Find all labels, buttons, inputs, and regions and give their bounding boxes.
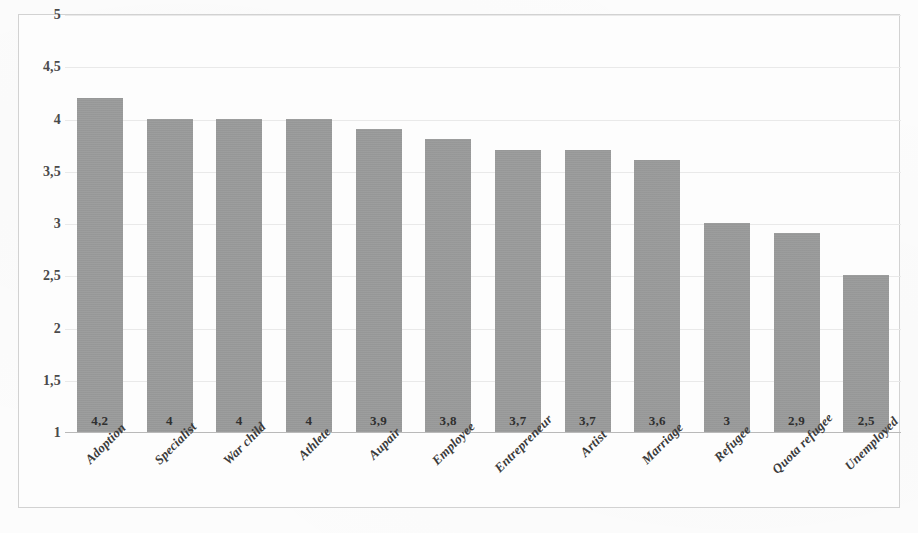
bar-slot: 2,5	[831, 15, 901, 432]
bar-slot: 2,9	[762, 15, 832, 432]
x-label-slot: Refugee	[692, 434, 762, 507]
bar[interactable]: 4	[286, 119, 332, 433]
x-label-slot: Adoption	[65, 434, 135, 507]
y-axis-tick-label: 5	[27, 7, 61, 23]
bar-slot: 4	[274, 15, 344, 432]
x-label-slot: Employee	[413, 434, 483, 507]
plot-area: 4,24443,93,83,73,73,632,92,5	[65, 15, 901, 433]
bar[interactable]: 3	[704, 223, 750, 432]
y-axis-tick-label: 2	[27, 321, 61, 337]
bar-value-label: 3,7	[565, 413, 611, 429]
bar-series: 4,24443,93,83,73,73,632,92,5	[65, 15, 901, 432]
bar-slot: 3,9	[344, 15, 414, 432]
y-axis-tick-label: 3	[27, 216, 61, 232]
bar[interactable]: 3,8	[425, 139, 471, 432]
bar-slot: 3,7	[483, 15, 553, 432]
x-label-slot: Marriage	[622, 434, 692, 507]
bar[interactable]: 4	[147, 119, 193, 433]
x-label-slot: Aupair	[344, 434, 414, 507]
x-axis-labels: AdoptionSpecialistWar childAthleteAupair…	[65, 434, 901, 507]
bar-slot: 4	[204, 15, 274, 432]
bar-slot: 3,7	[553, 15, 623, 432]
y-axis-tick-label: 1,5	[27, 373, 61, 389]
bar[interactable]: 2,9	[774, 233, 820, 432]
x-label-slot: Specialist	[135, 434, 205, 507]
bar[interactable]: 4,2	[77, 98, 123, 432]
chart-page: 54,543,532,521,51 4,24443,93,83,73,73,63…	[0, 0, 918, 533]
y-axis-tick-label: 1	[27, 425, 61, 441]
bar-slot: 3	[692, 15, 762, 432]
y-axis-tick-label: 4,5	[27, 59, 61, 75]
x-label-slot: Artist	[553, 434, 623, 507]
chart-frame: 54,543,532,521,51 4,24443,93,83,73,73,63…	[18, 14, 900, 508]
x-label-slot: War child	[204, 434, 274, 507]
bar[interactable]: 3,7	[495, 150, 541, 432]
y-axis: 54,543,532,521,51	[19, 15, 61, 509]
x-label-slot: Unemployed	[831, 434, 901, 507]
y-axis-tick-label: 4	[27, 112, 61, 128]
x-label-slot: Quota refugee	[762, 434, 832, 507]
bar[interactable]: 4	[216, 119, 262, 433]
y-axis-tick-label: 2,5	[27, 268, 61, 284]
bar-slot: 3,8	[413, 15, 483, 432]
bar[interactable]: 3,7	[565, 150, 611, 432]
y-axis-tick-label: 3,5	[27, 164, 61, 180]
x-label-slot: Athlete	[274, 434, 344, 507]
x-label-slot: Entrepreneur	[483, 434, 553, 507]
bar-slot: 3,6	[622, 15, 692, 432]
bar[interactable]: 3,9	[356, 129, 402, 432]
bar-slot: 4,2	[65, 15, 135, 432]
bar-slot: 4	[135, 15, 205, 432]
bar[interactable]: 3,6	[634, 160, 680, 432]
bar[interactable]: 2,5	[843, 275, 889, 432]
